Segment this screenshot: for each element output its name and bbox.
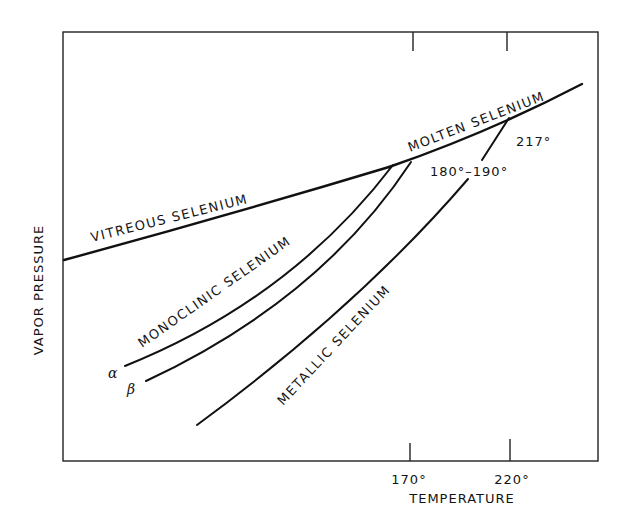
vapor-pressure-diagram: VITREOUS SELENIUM MOLTEN SELENIUM MONOCL… — [0, 0, 628, 530]
x-tick-220-label: 220° — [494, 472, 529, 487]
alpha-marker: α — [108, 365, 118, 381]
metallic-label: METALLIC SELENIUM — [274, 282, 393, 408]
vitreous-selenium-curve — [64, 167, 389, 260]
y-axis-title: VAPOR PRESSURE — [31, 225, 46, 356]
monoclinic-label: MONOCLINIC SELENIUM — [135, 233, 294, 350]
vitreous-label: VITREOUS SELENIUM — [89, 191, 250, 245]
metallic-melt-annotation: 217° — [516, 134, 551, 149]
range-annotation: 180°–190° — [430, 164, 508, 179]
x-axis-title: TEMPERATURE — [408, 491, 515, 506]
monoclinic-beta-curve — [146, 162, 411, 381]
beta-marker: β — [126, 381, 135, 397]
plot-frame — [63, 32, 598, 461]
x-tick-170-label: 170° — [391, 472, 426, 487]
metallic-selenium-curve — [197, 179, 468, 425]
